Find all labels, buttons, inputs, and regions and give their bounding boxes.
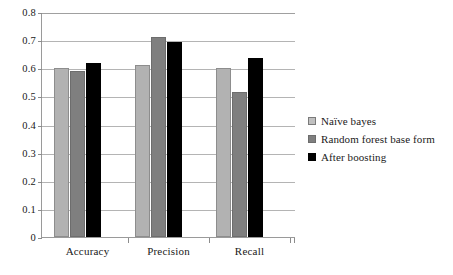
bar bbox=[54, 68, 69, 237]
x-axis-category-label: Precision bbox=[147, 244, 190, 258]
legend-swatch-icon bbox=[308, 135, 316, 143]
bar bbox=[232, 92, 247, 237]
group-padding bbox=[204, 13, 216, 14]
legend-item-label: Naïve bayes bbox=[321, 115, 376, 127]
y-axis-tick-label: 0.8 bbox=[2, 8, 36, 18]
plot-area bbox=[41, 13, 295, 238]
y-axis-tick-label: 0.7 bbox=[2, 36, 36, 46]
legend-item-label: Random forest base form bbox=[321, 133, 435, 145]
bar-group-accuracy bbox=[54, 13, 123, 237]
legend-swatch-icon bbox=[308, 117, 316, 125]
x-axis-category-label: Recall bbox=[235, 244, 264, 258]
legend-swatch-icon bbox=[308, 153, 316, 161]
y-axis-tick-label: 0.5 bbox=[2, 92, 36, 102]
bar bbox=[86, 63, 101, 237]
legend-item: Random forest base form bbox=[308, 130, 450, 148]
group-padding bbox=[42, 13, 54, 14]
x-axis-tick bbox=[290, 238, 291, 243]
bar-chart: 0.80.70.60.50.40.30.20.10 AccuracyPrecis… bbox=[0, 0, 453, 275]
bar bbox=[216, 68, 231, 237]
bar bbox=[135, 65, 150, 237]
x-axis-category-label: Accuracy bbox=[66, 244, 110, 258]
bar bbox=[248, 58, 263, 237]
bar-groups bbox=[42, 13, 295, 237]
empty-plot-space bbox=[285, 13, 295, 237]
x-axis-labels: AccuracyPrecisionRecall bbox=[41, 244, 295, 264]
bar bbox=[70, 71, 85, 237]
bar-group-recall bbox=[216, 13, 285, 237]
legend-item-label: After boosting bbox=[321, 151, 386, 163]
y-axis-labels: 0.80.70.60.50.40.30.20.10 bbox=[0, 0, 36, 275]
chart-legend: Naïve bayesRandom forest base formAfter … bbox=[308, 112, 450, 166]
bar bbox=[151, 37, 166, 237]
y-axis-tick-label: 0.3 bbox=[2, 149, 36, 159]
bar-group-precision bbox=[135, 13, 204, 237]
legend-item: After boosting bbox=[308, 148, 450, 166]
y-axis-tick-label: 0.6 bbox=[2, 64, 36, 74]
y-axis-tick-label: 0.4 bbox=[2, 121, 36, 131]
y-axis-tick-label: 0 bbox=[2, 233, 36, 243]
y-axis-tick-label: 0.1 bbox=[2, 205, 36, 215]
legend-item: Naïve bayes bbox=[308, 112, 450, 130]
x-axis-tick bbox=[128, 238, 129, 243]
bar bbox=[167, 42, 182, 237]
x-axis-tick bbox=[294, 238, 295, 243]
group-padding bbox=[123, 13, 135, 14]
x-axis-tick bbox=[209, 238, 210, 243]
y-axis-tick-label: 0.2 bbox=[2, 177, 36, 187]
